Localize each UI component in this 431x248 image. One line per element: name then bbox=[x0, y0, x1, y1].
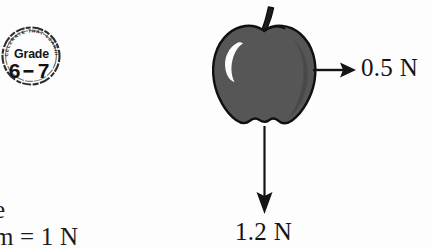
badge-value-separator bbox=[24, 70, 34, 73]
applied-force-label: 0.5 N bbox=[361, 55, 418, 80]
caption-line-2: m = 1 N bbox=[0, 223, 144, 248]
arrow-right-icon bbox=[312, 58, 358, 82]
weight-force-label: 1.2 N bbox=[235, 219, 292, 244]
badge-value-left: 6 bbox=[9, 59, 21, 82]
figure-caption: e m = 1 N bbox=[0, 196, 144, 248]
badge-value-right: 7 bbox=[38, 59, 50, 82]
applied-force-arrow bbox=[312, 58, 358, 82]
apple-illustration bbox=[200, 2, 330, 134]
grade-stamp-icon: ACCELERATE THAT LEARNING Grade 6 7 bbox=[1, 25, 61, 86]
apple-icon bbox=[200, 2, 330, 134]
grade-stamp-badge: ACCELERATE THAT LEARNING Grade 6 7 Grade… bbox=[1, 25, 61, 86]
arrow-down-icon bbox=[252, 126, 278, 216]
weight-force-arrow bbox=[252, 126, 278, 216]
figure-page: ACCELERATE THAT LEARNING Grade 6 7 Grade… bbox=[0, 0, 431, 248]
caption-line-1: e bbox=[0, 196, 144, 223]
